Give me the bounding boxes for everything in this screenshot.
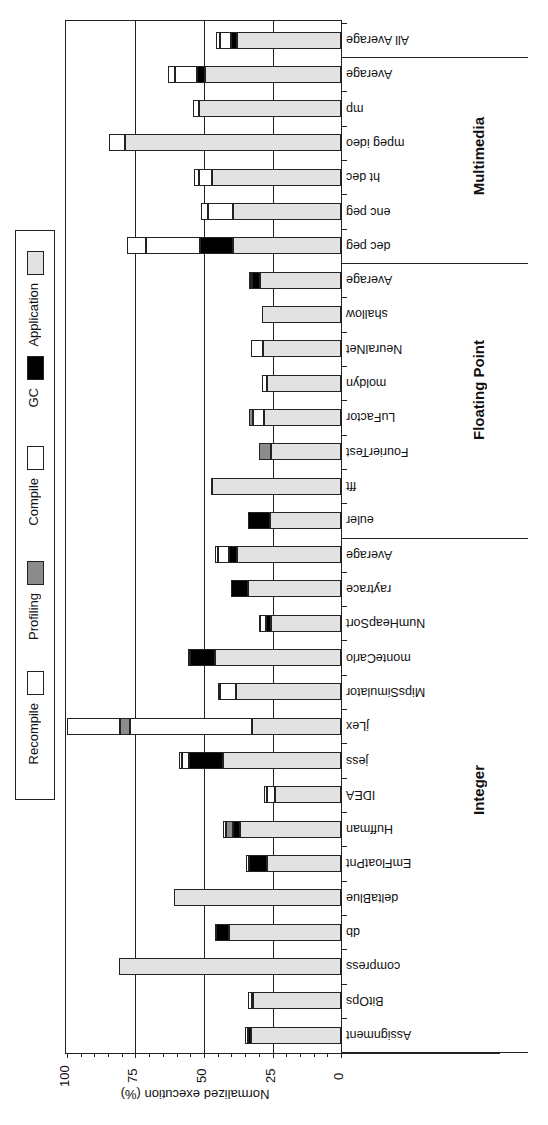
segment-recompile xyxy=(201,203,208,220)
category-tick xyxy=(341,469,347,470)
category-label: LuFactor xyxy=(346,409,395,425)
bar-raytrace xyxy=(0,580,548,597)
category-label: compress xyxy=(346,958,400,974)
category-tick xyxy=(341,435,347,436)
segment-recompile xyxy=(249,272,251,289)
bar-average xyxy=(0,66,548,83)
legend-label-recompile: Recompile xyxy=(26,703,41,764)
tick-40 xyxy=(231,1053,232,1057)
tick-30 xyxy=(259,1053,260,1057)
category-label: raytrace xyxy=(346,581,391,597)
category-tick xyxy=(341,949,347,950)
category-label: jLex xyxy=(346,718,369,734)
category-label: All Average xyxy=(346,32,409,48)
segment-compile xyxy=(220,683,235,700)
tick-label-75: 75 xyxy=(125,1062,145,1090)
segment-recompile xyxy=(109,134,124,151)
segment-recompile xyxy=(194,169,198,186)
segment-recompile xyxy=(215,546,218,563)
value-axis-title: Normalized execution (%) xyxy=(110,1087,280,1102)
segment-compile xyxy=(208,203,233,220)
segment-gc xyxy=(231,32,236,49)
legend-swatch-application xyxy=(27,251,44,275)
bar-euler xyxy=(0,512,548,529)
bar-ht-dec xyxy=(0,169,548,186)
segment-recompile xyxy=(168,66,175,83)
value-axis xyxy=(65,1053,500,1054)
segment-application xyxy=(119,958,341,975)
segment-application xyxy=(271,443,341,460)
tick-0 xyxy=(341,1053,342,1058)
bar-mipssimulator xyxy=(0,683,548,700)
legend-label-compile: Compile xyxy=(26,478,41,526)
tick-70 xyxy=(149,1053,150,1057)
category-tick xyxy=(341,606,347,607)
bar-fft xyxy=(0,478,548,495)
segment-application xyxy=(271,615,341,632)
category-tick xyxy=(341,366,347,367)
segment-application xyxy=(263,340,341,357)
legend-label-gc: GC xyxy=(26,388,41,408)
category-tick xyxy=(341,297,347,298)
category-tick xyxy=(341,126,347,127)
category-label: MipsSimulator xyxy=(346,684,425,700)
bar-mp xyxy=(0,100,548,117)
segment-gc xyxy=(248,512,270,529)
segment-compile xyxy=(218,546,229,563)
legend: ApplicationGCCompileProfilingRecompile xyxy=(15,230,55,800)
tick-95 xyxy=(81,1053,82,1057)
category-label: moldyn xyxy=(346,375,386,391)
tick-20 xyxy=(286,1053,287,1057)
category-tick xyxy=(341,984,347,985)
segment-application xyxy=(199,100,341,117)
bar-assignment xyxy=(0,1027,548,1044)
segment-recompile xyxy=(211,478,213,495)
segment-compile xyxy=(245,1027,248,1044)
segment-recompile xyxy=(259,615,261,632)
segment-recompile xyxy=(264,786,267,803)
bar-average xyxy=(0,272,548,289)
tick-label-100: 100 xyxy=(57,1062,77,1090)
category-label: monteCarlo xyxy=(346,650,411,666)
category-tick xyxy=(341,400,347,401)
category-tick xyxy=(341,160,347,161)
segment-compile xyxy=(215,924,217,941)
segment-gc xyxy=(231,580,247,597)
group-separator xyxy=(341,263,528,264)
segment-gc xyxy=(248,1027,251,1044)
segment-profiling xyxy=(249,409,253,426)
segment-recompile xyxy=(127,237,146,254)
segment-application xyxy=(237,32,341,49)
tick-label-25: 25 xyxy=(263,1062,283,1090)
segment-compile xyxy=(199,169,213,186)
category-tick xyxy=(341,846,347,847)
bar-dec-peg xyxy=(0,237,548,254)
segment-application xyxy=(212,169,341,186)
segment-application xyxy=(125,134,341,151)
bar-enc-peg xyxy=(0,203,548,220)
category-tick xyxy=(341,881,347,882)
tick-15 xyxy=(300,1053,301,1057)
category-tick xyxy=(341,332,347,333)
tick-5 xyxy=(327,1053,328,1057)
segment-recompile xyxy=(193,100,198,117)
legend-label-application: Application xyxy=(26,283,41,347)
bar-fouriertest xyxy=(0,443,548,460)
segment-compile xyxy=(262,375,267,392)
tick-80 xyxy=(122,1053,123,1057)
segment-application xyxy=(248,580,341,597)
bar-deltablue xyxy=(0,889,548,906)
legend-swatch-compile xyxy=(27,446,44,470)
segment-compile xyxy=(246,855,249,872)
segment-recompile xyxy=(216,32,220,49)
bar-db xyxy=(0,924,548,941)
tick-45 xyxy=(218,1053,219,1057)
category-label: dec peg xyxy=(346,238,390,254)
segment-gc xyxy=(229,546,237,563)
segment-recompile xyxy=(223,821,226,838)
bar-moldyn xyxy=(0,375,548,392)
segment-application xyxy=(267,375,341,392)
segment-application xyxy=(233,237,341,254)
category-tick xyxy=(341,229,347,230)
segment-application xyxy=(212,478,341,495)
